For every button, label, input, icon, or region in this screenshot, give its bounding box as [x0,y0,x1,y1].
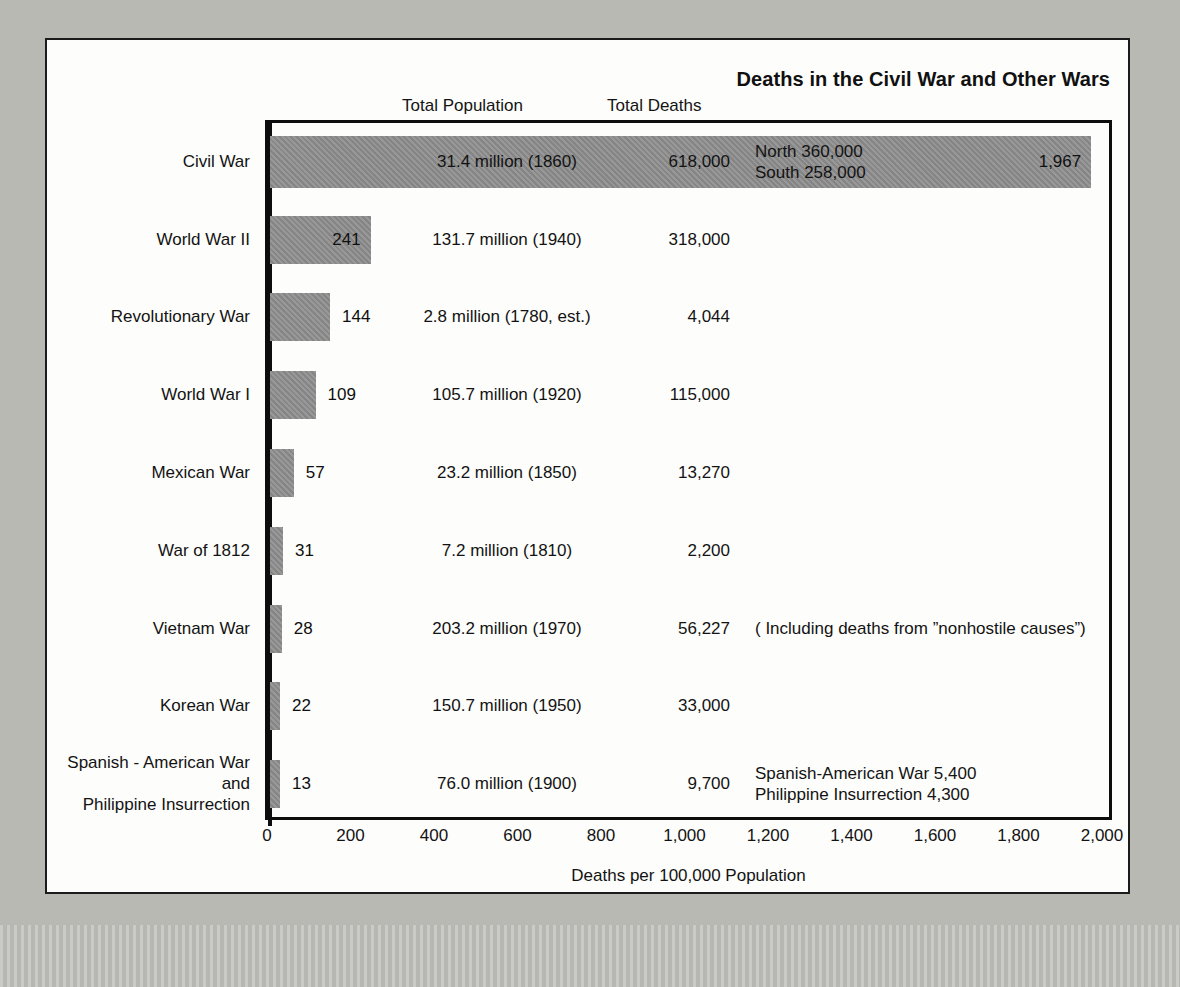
category-label: War of 1812 [35,540,250,561]
scan-noise-band [0,925,1180,987]
x-axis-tick-label: 200 [336,826,364,846]
bar-value-label: 22 [292,696,311,716]
category-label: Vietnam War [35,618,250,639]
x-axis-ticks: 02004006008001,0001,2001,4001,6001,8002,… [265,826,1112,866]
bar-row: War of 1812317.2 million (1810)2,200 [268,512,1109,590]
x-axis-title: Deaths per 100,000 Population [265,866,1112,886]
cell-total-deaths: 4,044 [620,307,730,327]
bar-row: Civil War1,96731.4 million (1860)618,000… [268,123,1109,201]
cell-total-population: 31.4 million (1860) [402,152,612,172]
cell-note: North 360,000 South 258,000 [755,141,866,184]
cell-total-population: 131.7 million (1940) [402,230,612,250]
x-axis-tick-label: 400 [420,826,448,846]
cell-total-population: 203.2 million (1970) [402,619,612,639]
cell-total-population: 76.0 million (1900) [402,774,612,794]
bar-value-label: 31 [295,541,314,561]
bar-value-label: 109 [328,385,356,405]
category-label: Revolutionary War [35,307,250,328]
cell-note: ( Including deaths from ”nonhostile caus… [755,618,1086,639]
cell-total-deaths: 56,227 [620,619,730,639]
x-axis-tick-label: 1,200 [747,826,790,846]
page-canvas: Deaths in the Civil War and Other Wars T… [0,0,1180,987]
figure-card: Deaths in the Civil War and Other Wars T… [45,38,1130,894]
x-axis-tick-label: 1,400 [830,826,873,846]
cell-total-deaths: 2,200 [620,541,730,561]
bar-row: Revolutionary War1442.8 million (1780, e… [268,279,1109,357]
chart-title: Deaths in the Civil War and Other Wars [737,68,1111,91]
cell-total-population: 105.7 million (1920) [402,385,612,405]
category-label: Civil War [35,152,250,173]
bar-row: Mexican War5723.2 million (1850)13,270 [268,434,1109,512]
cell-total-deaths: 618,000 [620,152,730,172]
cell-total-population: 2.8 million (1780, est.) [402,307,612,327]
bar [270,293,330,341]
category-label: Korean War [35,696,250,717]
x-axis-tick-label: 1,800 [997,826,1040,846]
category-label: World War I [35,385,250,406]
category-label: Mexican War [35,463,250,484]
bar-value-label: 144 [342,307,370,327]
bar-row: Korean War22150.7 million (1950)33,000 [268,667,1109,745]
bar-row: World War II241131.7 million (1940)318,0… [268,201,1109,279]
plot-area: Civil War1,96731.4 million (1860)618,000… [265,120,1112,820]
bar-value-label: 1,967 [1039,152,1082,172]
category-label: World War II [35,229,250,250]
x-axis-tick-label: 600 [503,826,531,846]
x-axis-tick-label: 800 [587,826,615,846]
cell-total-deaths: 9,700 [620,774,730,794]
cell-total-population: 23.2 million (1850) [402,463,612,483]
x-axis-tick-label: 1,000 [663,826,706,846]
bar [270,371,316,419]
bar-row: Spanish - American War and Philippine In… [268,745,1109,823]
bar-value-label: 28 [294,619,313,639]
cell-total-population: 150.7 million (1950) [402,696,612,716]
bar-value-label: 241 [332,230,360,250]
bar [270,527,283,575]
bar [270,760,280,808]
cell-note: Spanish-American War 5,400 Philippine In… [755,763,976,806]
cell-total-population: 7.2 million (1810) [402,541,612,561]
bar-value-label: 13 [292,774,311,794]
bar-row: Vietnam War28203.2 million (1970)56,227(… [268,590,1109,668]
bar [270,682,280,730]
bar-row: World War I109105.7 million (1920)115,00… [268,356,1109,434]
cell-total-deaths: 33,000 [620,696,730,716]
column-header-total-population: Total Population [402,96,523,116]
cell-total-deaths: 13,270 [620,463,730,483]
cell-total-deaths: 318,000 [620,230,730,250]
x-axis-tick-label: 0 [262,826,271,846]
bar [270,449,294,497]
column-header-total-deaths: Total Deaths [607,96,702,116]
bar-value-label: 57 [306,463,325,483]
bar [270,605,282,653]
x-axis-tick-label: 2,000 [1081,826,1124,846]
category-label: Spanish - American War and Philippine In… [35,753,250,815]
cell-total-deaths: 115,000 [620,385,730,405]
x-axis-tick-label: 1,600 [914,826,957,846]
